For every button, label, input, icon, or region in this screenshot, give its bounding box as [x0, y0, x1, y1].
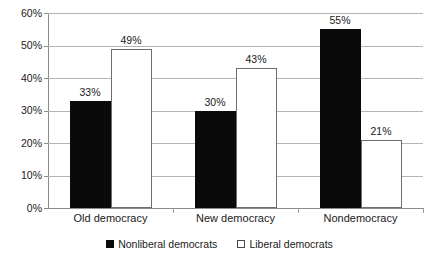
- bar-chart: 0%10%20%30%40%50%60% 33%49%30%43%55%21% …: [0, 0, 439, 260]
- chart-legend: Nonliberal democratsLiberal democrats: [0, 238, 439, 250]
- legend-label: Liberal democrats: [249, 238, 332, 250]
- y-axis-label: 0%: [2, 203, 42, 214]
- bar-old-democracy-liberal-democrats: [111, 49, 152, 208]
- outlined-square-icon: [237, 240, 245, 248]
- x-axis-category-label: Old democracy: [48, 212, 173, 225]
- bar-value-label: 30%: [195, 97, 236, 108]
- x-axis-category-label: Nondemocracy: [298, 212, 423, 225]
- bar-new-democracy-liberal-democrats: [236, 68, 277, 208]
- bar-nondemocracy-liberal-democrats: [361, 140, 402, 208]
- bar-nondemocracy-nonliberal-democrats: [320, 29, 361, 208]
- y-axis-label: 60%: [2, 8, 42, 19]
- filled-square-icon: [106, 240, 114, 248]
- bar-value-label: 43%: [236, 54, 277, 65]
- legend-item: Liberal democrats: [237, 238, 332, 250]
- y-axis-label: 40%: [2, 73, 42, 84]
- y-axis-label: 50%: [2, 40, 42, 51]
- bar-old-democracy-nonliberal-democrats: [70, 101, 111, 208]
- y-axis-label: 10%: [2, 170, 42, 181]
- y-axis-tick: [44, 78, 48, 79]
- legend-item: Nonliberal democrats: [106, 238, 217, 250]
- gridline: [48, 208, 423, 209]
- y-axis-tick: [44, 46, 48, 47]
- y-axis-label: 30%: [2, 105, 42, 116]
- category-tick: [423, 208, 424, 213]
- bar-value-label: 33%: [70, 87, 111, 98]
- y-axis-tick: [44, 13, 48, 14]
- bar-value-label: 21%: [361, 126, 402, 137]
- y-axis-label: 20%: [2, 138, 42, 149]
- gridline: [48, 13, 423, 14]
- y-axis-tick: [44, 176, 48, 177]
- plot-area: 33%49%30%43%55%21%: [48, 13, 423, 208]
- bar-value-label: 49%: [111, 35, 152, 46]
- x-axis-category-label: New democracy: [173, 212, 298, 225]
- gridline: [48, 46, 423, 47]
- legend-label: Nonliberal democrats: [118, 238, 217, 250]
- y-axis-tick: [44, 143, 48, 144]
- bar-value-label: 55%: [320, 15, 361, 26]
- bar-new-democracy-nonliberal-democrats: [195, 111, 236, 209]
- y-axis-tick: [44, 208, 48, 209]
- y-axis-tick: [44, 111, 48, 112]
- y-axis-tick-labels: 0%10%20%30%40%50%60%: [0, 0, 42, 260]
